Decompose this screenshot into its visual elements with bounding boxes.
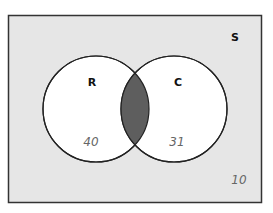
- universe-label: S: [231, 31, 239, 44]
- venn-diagram: S R C 40 31 10: [0, 0, 273, 213]
- set-r-label: R: [88, 76, 97, 89]
- outside-count: 10: [231, 173, 247, 187]
- set-r-only-count: 40: [83, 135, 99, 149]
- set-c-only-count: 31: [169, 135, 184, 149]
- set-c-label: C: [174, 76, 182, 89]
